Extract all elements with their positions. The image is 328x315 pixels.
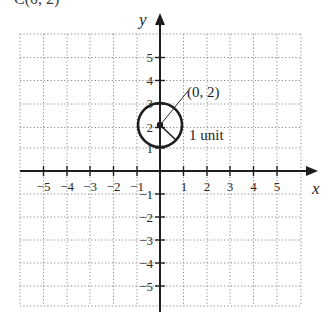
y-tick-label: −2 [139,210,153,225]
y-tick-label: 4 [147,73,154,88]
radius-label: 1 unit [189,127,224,143]
cut-off-header-text: C(0, 2) [14,0,59,8]
x-tick-label: 1 [181,179,188,194]
y-axis-label: y [137,10,147,29]
x-tick-label: 3 [227,179,234,194]
y-tick-label: −4 [139,256,153,271]
radius-segment [161,126,176,140]
x-tick-label: −4 [60,179,74,194]
y-tick-label: −3 [139,233,153,248]
x-axis-arrow-icon [306,166,318,176]
x-tick-labels: −5 −4 −3 −2 −1 1 2 3 4 5 [37,179,281,194]
coordinate-plane: C(0, 2) [0,0,328,315]
x-tick-label: 2 [204,179,211,194]
x-axis-label: x [311,179,320,198]
x-tick-label: −3 [83,179,97,194]
y-axis-arrow-icon [155,13,165,25]
x-tick-label: 5 [274,179,281,194]
y-tick-label: 5 [147,50,154,65]
y-tick-label: 2 [147,120,154,135]
y-tick-label: −1 [139,187,153,202]
y-tick-label: −5 [139,279,153,294]
x-tick-label: −2 [107,179,121,194]
x-tick-label: −5 [37,179,51,194]
x-tick-label: 4 [250,179,257,194]
center-label: (0, 2) [187,84,220,101]
